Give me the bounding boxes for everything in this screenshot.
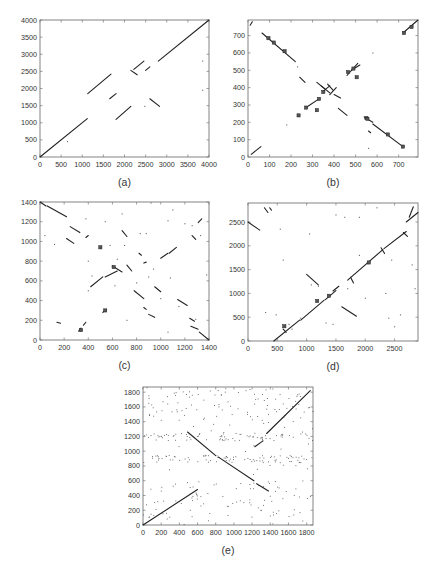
y-tick-label: 600: [233, 48, 245, 57]
alignment-segment: [198, 219, 202, 223]
alignment-segment: [70, 227, 80, 233]
y-tick-label: 300: [233, 100, 245, 109]
match-marker: [401, 145, 404, 148]
x-tick-label: 1000: [74, 160, 90, 169]
axis-ticks: 0200400600800100012001400160018000200400…: [124, 387, 315, 537]
alignment-segment: [330, 88, 336, 95]
x-tick-label: 1200: [177, 343, 193, 352]
x-tick-label: 1000: [226, 528, 242, 537]
match-marker: [316, 299, 319, 302]
match-point: [289, 324, 290, 325]
y-tick-label: 2500: [21, 67, 37, 76]
match-point: [202, 61, 203, 62]
alignment-segment: [105, 271, 117, 277]
match-marker: [104, 309, 107, 312]
alignment-segment: [134, 291, 144, 299]
x-tick-label: 1800: [299, 528, 315, 537]
alignment-segment: [134, 61, 144, 69]
match-point: [335, 214, 336, 215]
match-point: [91, 275, 92, 276]
match-marker: [367, 261, 370, 264]
x-tick-label: 3000: [159, 160, 175, 169]
plot-frame: [248, 203, 418, 341]
y-tick-label: 600: [128, 476, 140, 485]
x-tick-label: 1000: [153, 343, 169, 352]
alignment-segment: [369, 131, 371, 133]
alignment-segment: [127, 265, 132, 271]
match-point: [110, 245, 111, 246]
x-tick-label: 500: [271, 344, 283, 353]
match-point: [388, 318, 389, 319]
y-tick-label: 1500: [229, 265, 245, 274]
alignment-segment: [149, 314, 155, 317]
alignment-segment: [248, 222, 260, 230]
x-tick-label: 400: [328, 160, 340, 169]
y-tick-label: 0: [33, 336, 37, 345]
alignment-segment: [301, 300, 324, 320]
match-point: [311, 284, 312, 285]
x-tick-label: 4000: [201, 160, 217, 169]
x-tick-label: 1500: [328, 344, 344, 353]
match-marker: [297, 114, 300, 117]
alignment-segment: [403, 233, 407, 237]
x-tick-label: 0: [38, 160, 42, 169]
match-marker: [267, 37, 270, 40]
alignment-segment: [158, 20, 209, 61]
y-tick-label: 200: [233, 118, 245, 127]
match-point: [391, 260, 392, 261]
data-series: [250, 20, 418, 154]
alignment-segment: [131, 70, 137, 74]
data-series: [143, 387, 313, 525]
alignment-segment: [264, 208, 268, 213]
match-point: [365, 298, 366, 299]
match-point: [376, 207, 377, 208]
match-point: [88, 290, 89, 291]
alignment-segment: [255, 441, 263, 447]
match-marker: [386, 133, 389, 136]
panel-caption: (c): [118, 359, 130, 371]
y-tick-label: 0: [241, 337, 245, 346]
match-point: [167, 332, 168, 333]
x-tick-label: 200: [285, 160, 297, 169]
match-point: [206, 274, 207, 275]
match-point: [54, 244, 55, 245]
alignment-segment: [86, 236, 88, 238]
x-tick-label: 800: [210, 528, 222, 537]
alignment-segment: [274, 320, 300, 341]
x-tick-label: 1600: [280, 528, 296, 537]
y-tick-label: 0: [241, 153, 245, 162]
x-tick-label: 500: [350, 160, 362, 169]
y-tick-label: 2000: [229, 241, 245, 250]
match-point: [178, 306, 179, 307]
x-tick-label: 1500: [95, 160, 111, 169]
y-tick-label: 3000: [21, 50, 37, 59]
y-tick-label: 1000: [229, 289, 245, 298]
y-tick-label: 800: [128, 461, 140, 470]
alignment-segment: [91, 277, 103, 287]
match-point: [202, 90, 203, 91]
match-point: [300, 318, 301, 319]
plot-frame: [40, 202, 209, 340]
y-tick-label: 2000: [21, 84, 37, 93]
data-series: [248, 207, 418, 341]
match-marker: [315, 109, 318, 112]
match-point: [297, 66, 298, 67]
match-marker: [79, 329, 82, 332]
alignment-segment: [338, 108, 347, 115]
panel-e: 0200400600800100012001400160018000200400…: [124, 387, 315, 556]
y-tick-label: 1000: [21, 237, 37, 246]
match-point: [146, 233, 147, 234]
y-tick-label: 0: [136, 521, 140, 530]
match-point: [359, 255, 360, 256]
match-point: [136, 282, 137, 283]
panel-caption: (b): [327, 176, 340, 188]
match-marker: [352, 67, 355, 70]
match-point: [105, 221, 106, 222]
match-marker: [322, 90, 325, 93]
figure-panels: 0500100015002000250030003500400005001000…: [0, 0, 431, 567]
alignment-segment: [169, 247, 176, 253]
y-tick-label: 1200: [124, 432, 140, 441]
x-tick-label: 2500: [387, 344, 403, 353]
alignment-segment: [257, 484, 269, 491]
x-tick-label: 800: [131, 343, 143, 352]
